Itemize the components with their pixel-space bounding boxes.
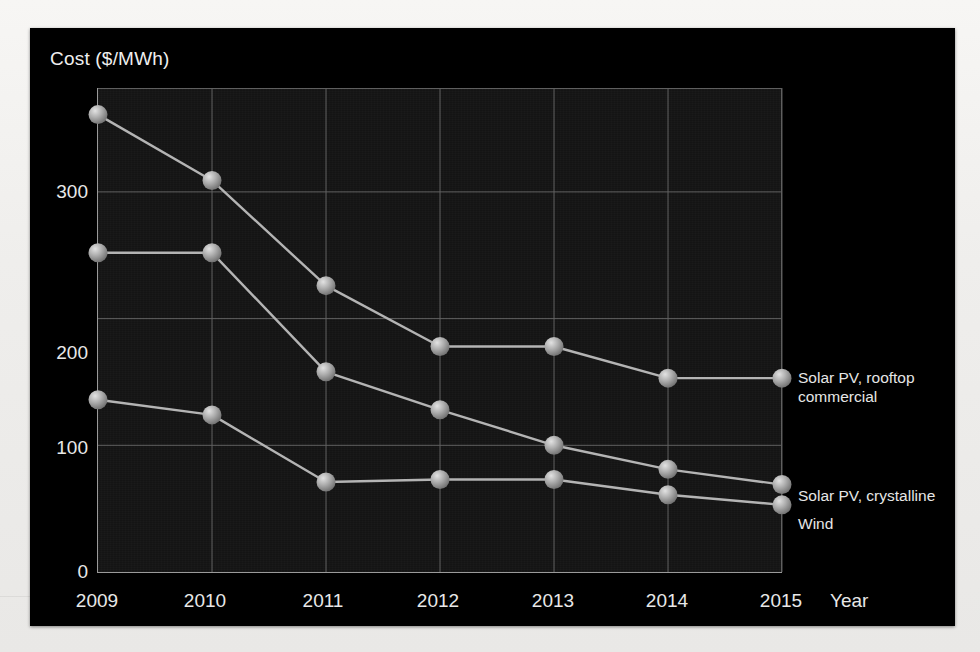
data-point-marker[interactable] <box>89 390 108 409</box>
x-axis-title: Year <box>830 590 868 612</box>
data-point-marker[interactable] <box>431 400 450 419</box>
data-point-marker[interactable] <box>545 436 564 455</box>
data-point-marker[interactable] <box>317 276 336 295</box>
data-point-marker[interactable] <box>545 470 564 489</box>
data-point-marker[interactable] <box>545 337 564 356</box>
chart-title: Cost ($/MWh) <box>50 48 170 70</box>
data-point-marker[interactable] <box>317 473 336 492</box>
scan-artifact-line <box>0 596 32 597</box>
plot-area <box>97 88 782 573</box>
series-label-wind: Wind <box>798 514 833 533</box>
gridlines <box>98 88 782 572</box>
data-point-marker[interactable] <box>659 369 678 388</box>
data-point-marker[interactable] <box>317 362 336 381</box>
x-tick-label-2011: 2011 <box>297 590 349 612</box>
y-tick-label-0: 0 <box>30 561 88 583</box>
series-label-solar-pv-rooftop-commercial: Solar PV, rooftop commercial <box>798 368 915 406</box>
data-point-marker[interactable] <box>203 243 222 262</box>
data-point-marker[interactable] <box>659 485 678 504</box>
chart-panel: Cost ($/MWh) 300 200 100 0 2009 2010 201… <box>30 28 955 626</box>
data-point-marker[interactable] <box>773 495 792 514</box>
x-tick-label-2010: 2010 <box>179 590 231 612</box>
data-point-marker[interactable] <box>659 460 678 479</box>
x-tick-label-2014: 2014 <box>641 590 693 612</box>
x-tick-label-2012: 2012 <box>412 590 464 612</box>
data-point-marker[interactable] <box>89 105 108 124</box>
data-point-marker[interactable] <box>431 337 450 356</box>
data-point-marker[interactable] <box>203 171 222 190</box>
x-tick-label-2015: 2015 <box>755 590 807 612</box>
y-tick-label-300: 300 <box>30 181 88 203</box>
plot-svg <box>98 88 782 572</box>
series-label-solar-pv-crystalline: Solar PV, crystalline <box>798 486 935 505</box>
y-tick-label-100: 100 <box>30 437 88 459</box>
data-point-marker[interactable] <box>203 405 222 424</box>
data-point-marker[interactable] <box>89 243 108 262</box>
data-point-marker[interactable] <box>773 369 792 388</box>
x-tick-label-2013: 2013 <box>527 590 579 612</box>
y-tick-label-200: 200 <box>30 342 88 364</box>
x-tick-label-2009: 2009 <box>71 590 123 612</box>
data-point-marker[interactable] <box>431 470 450 489</box>
data-point-marker[interactable] <box>773 475 792 494</box>
